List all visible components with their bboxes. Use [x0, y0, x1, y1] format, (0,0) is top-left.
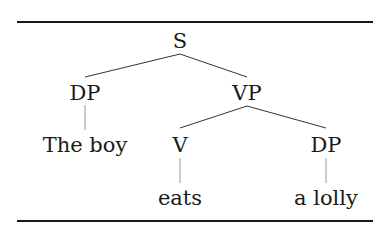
- edge-s-vp: [180, 54, 247, 77]
- node-dp-object: DP: [311, 133, 342, 157]
- syntax-tree-diagram: S DP VP The boy V DP eats a lolly: [0, 0, 389, 229]
- node-s: S: [173, 29, 187, 53]
- leaf-verb: eats: [158, 186, 202, 210]
- node-vp: VP: [231, 81, 261, 105]
- node-dp-subject: DP: [70, 81, 101, 105]
- leaf-object: a lolly: [294, 186, 358, 210]
- leaf-subject: The boy: [43, 133, 128, 157]
- edge-vp-v: [180, 106, 247, 128]
- edge-s-dp: [85, 54, 180, 77]
- edge-vp-dp: [247, 106, 326, 128]
- node-v: V: [171, 133, 188, 157]
